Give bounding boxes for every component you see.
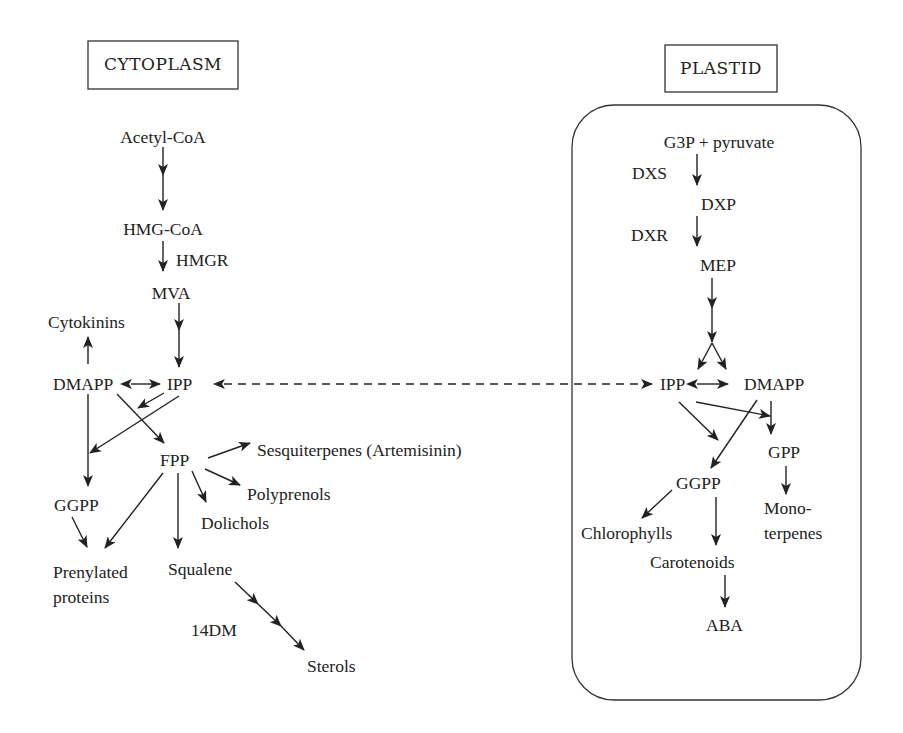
node-aba: ABA (706, 615, 743, 635)
arrow-fpp-to-dolichols (192, 471, 206, 502)
node-ipp-cyto: IPP (167, 374, 193, 394)
enzyme-dxr: DXR (631, 225, 668, 245)
arrow-squalene-to-sterols-a (235, 582, 258, 604)
node-squalene: Squalene (168, 559, 232, 579)
node-ipp-plastid: IPP (660, 374, 686, 394)
node-mva: MVA (152, 283, 191, 303)
node-prenylated-proteins-l1: Prenylated (53, 562, 128, 582)
arrow-mep-to-dmapp (712, 343, 726, 369)
cytoplasm-label: CYTOPLASM (104, 54, 222, 74)
node-acetyl-coa: Acetyl-CoA (120, 127, 206, 147)
node-sesquiterpenes: Sesquiterpenes (Artemisinin) (257, 440, 462, 460)
arrow-ipp-to-gpp (696, 402, 770, 416)
arrow-dmapp-to-ggpp-plastid (711, 400, 757, 468)
node-polyprenols: Polyprenols (247, 484, 331, 504)
cytoplasm-header: CYTOPLASM (88, 41, 238, 89)
arrow-ipp-to-ggpp (90, 396, 179, 453)
enzyme-dxs: DXS (632, 163, 667, 183)
plastid-label: PLASTID (680, 58, 762, 78)
cytoplasm-nodes: Acetyl-CoA HMG-CoA HMGR MVA Cytokinins D… (48, 127, 462, 676)
arrow-ggpp-to-chlorophylls (642, 490, 672, 518)
node-chlorophylls: Chlorophylls (581, 523, 673, 543)
node-mep: MEP (700, 255, 736, 275)
node-sterols: Sterols (307, 656, 356, 676)
node-ggpp-plastid: GGPP (676, 473, 721, 493)
node-monoterpenes-l1: Mono- (764, 498, 812, 518)
arrow-ipp-to-fpp-join (138, 393, 164, 408)
plastid-header: PLASTID (665, 45, 777, 92)
node-g3p-pyruvate: G3P + pyruvate (664, 132, 775, 152)
node-prenylated-proteins-l2: proteins (53, 587, 110, 607)
arrow-fpp-to-prenylated (105, 473, 163, 548)
node-dmapp-plastid: DMAPP (744, 374, 805, 394)
node-carotenoids: Carotenoids (650, 552, 735, 572)
node-gpp: GPP (768, 442, 800, 462)
arrow-ggpp-to-prenylated (72, 517, 87, 547)
pathway-diagram: CYTOPLASM PLASTID Acetyl-CoA HMG-CoA HMG… (0, 0, 903, 733)
enzyme-14dm: 14DM (191, 620, 237, 640)
node-dxp: DXP (701, 194, 736, 214)
arrow-mep-to-ipp (698, 343, 712, 369)
node-monoterpenes-l2: terpenes (764, 523, 822, 543)
node-dmapp-cyto: DMAPP (53, 374, 114, 394)
arrow-dmapp-to-fpp (117, 394, 164, 443)
node-fpp: FPP (160, 450, 189, 470)
arrow-squalene-to-sterols-b (258, 604, 281, 626)
enzyme-hmgr: HMGR (176, 250, 229, 270)
node-hmg-coa: HMG-CoA (123, 219, 203, 239)
arrow-squalene-to-sterols-c (281, 626, 304, 650)
node-dolichols: Dolichols (201, 513, 269, 533)
arrow-fpp-to-sesquiterpenes (208, 443, 250, 458)
arrow-fpp-to-polyprenols (205, 469, 240, 485)
node-ggpp-cyto: GGPP (54, 495, 99, 515)
arrow-ipp-to-ggpp-plastid (679, 402, 718, 440)
node-cytokinins: Cytokinins (48, 312, 125, 332)
